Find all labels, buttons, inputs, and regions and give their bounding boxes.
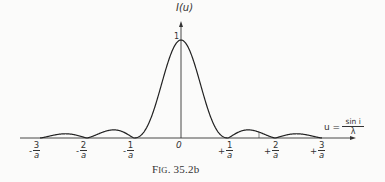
figure-caption: FIG. 35.2b [152, 163, 199, 175]
y-peak-label: 1 [174, 32, 179, 41]
x-axis-var: u = [324, 122, 340, 132]
x-axis-label: u = sin i λ [324, 118, 364, 136]
tick-label-plus-2a: + 2a [264, 141, 279, 160]
x-axis-numerator: sin i [346, 118, 361, 126]
tick-label-minus-1a: - 1a [123, 141, 134, 160]
x-axis-denominator: λ [351, 127, 356, 136]
tick-label-minus-2a: - 2a [76, 141, 87, 160]
tick-label-minus-3a: - 3a [29, 141, 40, 160]
origin-label: 0 [176, 140, 182, 150]
diffraction-plot [0, 0, 385, 182]
tick-label-plus-3a: + 3a [310, 141, 325, 160]
y-axis-label: I(u) [176, 2, 193, 13]
tick-label-plus-1a: + 1a [218, 141, 233, 160]
x-axis-arrow-icon [350, 136, 356, 140]
y-axis-arrow-icon [179, 21, 183, 27]
